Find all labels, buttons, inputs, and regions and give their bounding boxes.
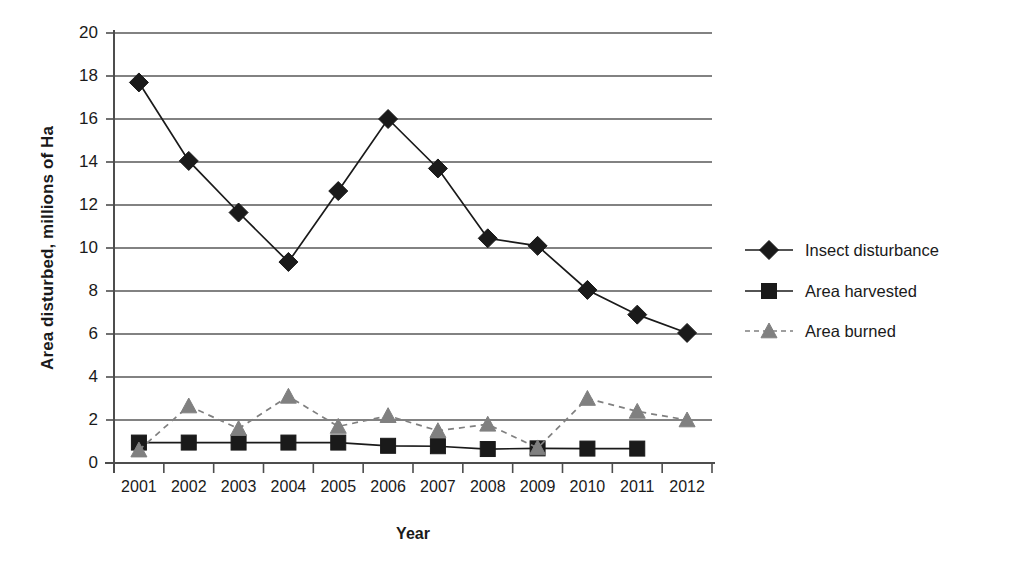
data-point-square <box>381 438 396 453</box>
data-point-square <box>281 435 296 450</box>
y-tick-label: 18 <box>52 67 98 84</box>
y-tick-label: 14 <box>52 153 98 170</box>
legend-markers <box>745 241 793 338</box>
y-tick-label: 12 <box>52 196 98 213</box>
chart-figure: Area disturbed, millions of Ha Year 0246… <box>0 0 1017 565</box>
data-point-diamond <box>329 182 348 201</box>
x-tick-label: 2002 <box>161 479 217 495</box>
data-point-square <box>231 435 246 450</box>
y-tick-label: 16 <box>52 110 98 127</box>
x-tick-label: 2003 <box>211 479 267 495</box>
series-line <box>139 82 687 332</box>
data-point-square <box>762 284 777 299</box>
data-point-triangle <box>380 408 396 423</box>
data-point-square <box>430 439 445 454</box>
x-tick-label: 2008 <box>460 479 516 495</box>
y-axis-ticks <box>106 33 114 463</box>
y-tick-label: 0 <box>52 454 98 471</box>
x-tick-label: 2005 <box>310 479 366 495</box>
x-tick-label: 2007 <box>410 479 466 495</box>
legend-item-insect-disturbance[interactable]: Insect disturbance <box>805 242 939 259</box>
data-point-triangle <box>181 398 197 413</box>
x-tick-label: 2012 <box>659 479 715 495</box>
data-point-square <box>331 435 346 450</box>
data-point-square <box>580 441 595 456</box>
data-point-triangle <box>231 421 247 436</box>
series-area-harvested <box>131 435 644 456</box>
axis-lines <box>105 30 715 473</box>
data-point-triangle <box>579 391 595 406</box>
data-point-triangle <box>480 416 496 431</box>
series-insect-disturbance <box>129 73 696 342</box>
y-tick-label: 2 <box>52 411 98 428</box>
data-point-square <box>630 441 645 456</box>
y-tick-label: 10 <box>52 239 98 256</box>
data-point-diamond <box>628 305 647 324</box>
data-point-triangle <box>280 388 296 403</box>
x-tick-label: 2004 <box>260 479 316 495</box>
x-tick-label: 2006 <box>360 479 416 495</box>
data-point-square <box>181 435 196 450</box>
series-layer <box>129 73 696 457</box>
x-axis-ticks <box>114 463 712 473</box>
y-tick-label: 6 <box>52 325 98 342</box>
legend-item-area-burned[interactable]: Area burned <box>805 323 896 340</box>
y-tick-label: 8 <box>52 282 98 299</box>
x-tick-label: 2011 <box>609 479 665 495</box>
y-tick-label: 4 <box>52 368 98 385</box>
y-tick-label: 20 <box>52 24 98 41</box>
x-tick-label: 2010 <box>559 479 615 495</box>
data-point-diamond <box>760 241 779 260</box>
data-point-diamond <box>678 323 697 342</box>
data-point-square <box>480 442 495 457</box>
x-tick-label: 2001 <box>111 479 167 495</box>
data-point-triangle <box>430 423 446 438</box>
data-point-diamond <box>478 229 497 248</box>
legend-item-area-harvested[interactable]: Area harvested <box>805 283 917 300</box>
x-tick-label: 2009 <box>510 479 566 495</box>
gridlines <box>114 33 712 463</box>
